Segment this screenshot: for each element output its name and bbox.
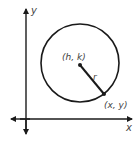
center-label: (h, k) bbox=[62, 52, 86, 62]
circle-point bbox=[102, 92, 106, 96]
radius-label: r bbox=[93, 72, 98, 82]
point-label: (x, y) bbox=[104, 100, 127, 110]
x-axis-label: x bbox=[125, 122, 132, 133]
radius-line bbox=[80, 65, 104, 94]
y-axis-label: y bbox=[30, 5, 38, 16]
circle-diagram: y x (h, k) r (x, y) bbox=[0, 0, 139, 147]
center-point bbox=[78, 63, 82, 67]
